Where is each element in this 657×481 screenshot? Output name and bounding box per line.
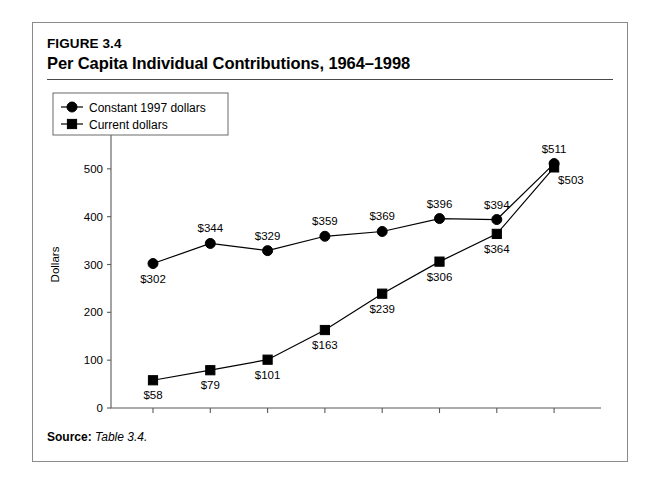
y-tick-label: 400 [84, 211, 103, 223]
data-point-marker [148, 259, 158, 269]
data-point-label: $344 [198, 222, 224, 234]
chart-data-labels: $302$344$329$359$369$396$394$511$58$79$1… [140, 143, 583, 402]
data-point-label: $511 [542, 143, 567, 155]
page-title: Per Capita Individual Contributions, 196… [47, 53, 613, 74]
source-note: Source: Table 3.4. [47, 429, 147, 445]
source-label: Source: [47, 430, 92, 444]
data-point-marker [263, 246, 273, 256]
data-point-marker [492, 215, 502, 225]
data-point-marker [377, 226, 387, 236]
data-point-marker [263, 355, 272, 364]
data-point-label: $79 [201, 379, 220, 391]
chart-axes: 0100200300400500600196419691974197919841… [49, 115, 601, 415]
chart-area: 0100200300400500600196419691974197919841… [33, 85, 629, 415]
data-point-label: $306 [427, 271, 453, 283]
figure-panel: FIGURE 3.4 Per Capita Individual Contrib… [32, 22, 628, 462]
legend-label: Current dollars [89, 118, 168, 132]
data-point-label: $503 [558, 174, 584, 186]
data-point-label: $163 [312, 339, 338, 351]
data-point-label: $302 [140, 273, 166, 285]
legend-marker-square [67, 119, 76, 128]
data-point-label: $359 [312, 215, 338, 227]
y-tick-label: 100 [84, 354, 103, 366]
data-point-label: $396 [427, 198, 453, 210]
data-point-label: $369 [369, 210, 395, 222]
data-point-label: $394 [484, 199, 510, 211]
data-point-marker [378, 289, 387, 298]
y-tick-label: 300 [84, 259, 103, 271]
data-point-marker [550, 163, 559, 172]
data-point-marker [435, 257, 444, 266]
data-point-marker [320, 231, 330, 241]
legend-marker-circle [67, 102, 77, 112]
data-point-marker [320, 325, 329, 334]
data-point-marker [492, 229, 501, 238]
data-point-label: $58 [143, 389, 162, 401]
chart-legend: Constant 1997 dollarsCurrent dollars [53, 93, 228, 135]
data-point-marker [148, 376, 157, 385]
data-point-label: $364 [484, 243, 510, 255]
title-divider [47, 79, 613, 80]
data-point-label: $101 [255, 369, 281, 381]
data-point-label: $329 [255, 230, 281, 242]
source-value: Table 3.4. [95, 430, 147, 444]
chart-series [148, 159, 559, 385]
line-chart: 0100200300400500600196419691974197919841… [33, 85, 629, 415]
data-point-marker [205, 238, 215, 248]
y-axis-title: Dollars [49, 246, 61, 282]
data-point-label: $239 [369, 303, 395, 315]
y-tick-label: 200 [84, 306, 103, 318]
figure-number: FIGURE 3.4 [47, 35, 613, 52]
legend-label: Constant 1997 dollars [89, 101, 206, 115]
y-tick-label: 500 [84, 163, 103, 175]
figure-heading: FIGURE 3.4 Per Capita Individual Contrib… [47, 35, 613, 74]
y-tick-label: 0 [97, 402, 103, 414]
data-point-marker [206, 366, 215, 375]
data-point-marker [435, 214, 445, 224]
